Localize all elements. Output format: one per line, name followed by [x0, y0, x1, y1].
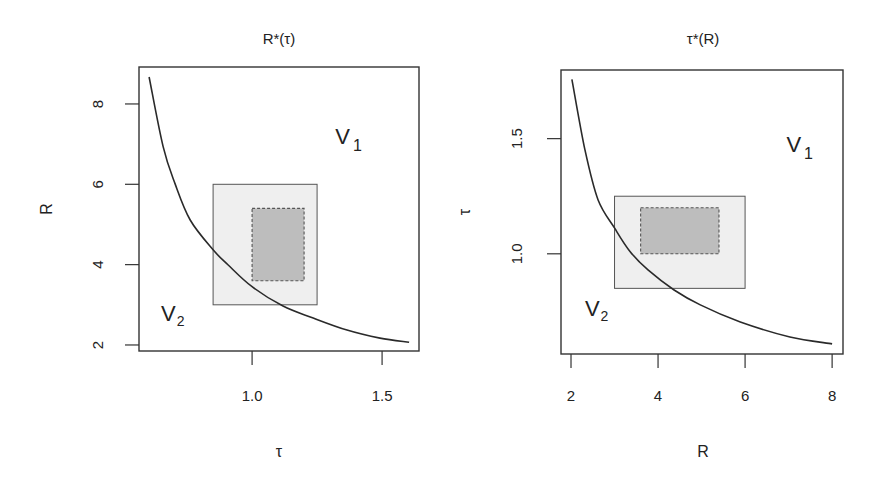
chart-title: R*(τ) [263, 30, 296, 47]
region-label-v1: V1 [335, 124, 362, 154]
inner-region [641, 208, 719, 254]
x-tick-label: 6 [741, 387, 749, 404]
x-axis-label: τ [276, 443, 283, 460]
inner-region [252, 208, 304, 280]
chart-title: τ*(R) [687, 30, 720, 47]
figure-canvas: 1.01.52468R*(τ)τRV1V2 24681.01.5τ*(R)RτV… [0, 0, 887, 481]
x-tick-label: 8 [828, 387, 836, 404]
y-tick-label: 1.5 [508, 128, 525, 149]
y-axis-label: τ [456, 208, 473, 215]
y-tick-label: 8 [89, 100, 106, 108]
x-tick-label: 4 [654, 387, 662, 404]
y-tick-label: 1.0 [508, 243, 525, 264]
x-tick-label: 1.5 [372, 387, 393, 404]
region-label-v2: V2 [161, 301, 185, 329]
y-tick-label: 4 [89, 260, 106, 268]
x-axis-label: R [697, 443, 709, 460]
y-tick-label: 6 [89, 180, 106, 188]
x-tick-label: 1.0 [242, 387, 263, 404]
panel-r-star-of-tau: 1.01.52468R*(τ)τRV1V2 [38, 30, 419, 460]
region-label-v2: V2 [585, 296, 609, 324]
region-label-v1: V1 [786, 132, 813, 162]
y-tick-label: 2 [89, 341, 106, 349]
y-axis-label: R [38, 203, 55, 215]
panel-tau-star-of-r: 24681.01.5τ*(R)RτV1V2 [456, 30, 843, 460]
x-tick-label: 2 [567, 387, 575, 404]
